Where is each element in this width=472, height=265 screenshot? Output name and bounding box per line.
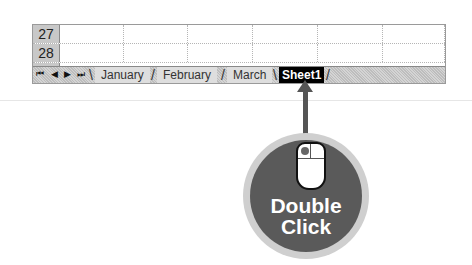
divider	[0, 100, 472, 101]
cell[interactable]	[60, 44, 124, 62]
mouse-icon	[296, 142, 326, 190]
tab-separator: \	[89, 67, 93, 83]
row-28[interactable]: 28	[33, 44, 445, 63]
cell[interactable]	[60, 25, 124, 43]
tab-january[interactable]: January	[95, 67, 150, 83]
cell[interactable]	[383, 44, 445, 62]
cell[interactable]	[253, 44, 318, 62]
tab-separator: /	[151, 67, 155, 83]
tab-separator: \	[273, 67, 277, 83]
tab-separator: /	[326, 67, 330, 83]
cell[interactable]	[253, 25, 318, 43]
sheet-tab-bar: ⏮ ◀ ▶ ⏭ \ January / February / March \ S…	[33, 66, 445, 84]
tab-february[interactable]: February	[157, 67, 217, 83]
cell[interactable]	[188, 44, 253, 62]
last-sheet-icon[interactable]: ⏭	[77, 69, 85, 80]
row-header[interactable]: 28	[33, 44, 60, 62]
left-button-highlight	[301, 147, 309, 155]
next-sheet-icon[interactable]: ▶	[64, 69, 71, 79]
row-27[interactable]: 27	[33, 25, 445, 44]
cell[interactable]	[124, 25, 188, 43]
spreadsheet-grid: 27 28 29 ⏮ ◀ ▶ ⏭ \ January / February / …	[32, 24, 446, 84]
prev-sheet-icon[interactable]: ◀	[51, 69, 58, 79]
tab-march[interactable]: March	[227, 67, 272, 83]
cell[interactable]	[318, 44, 383, 62]
tab-separator: /	[221, 67, 225, 83]
cell[interactable]	[124, 44, 188, 62]
first-sheet-icon[interactable]: ⏮	[36, 69, 44, 80]
cell[interactable]	[318, 25, 383, 43]
cell[interactable]	[383, 25, 445, 43]
row-header[interactable]: 27	[33, 25, 60, 43]
callout-text-click: Click	[250, 216, 362, 237]
cell[interactable]	[188, 25, 253, 43]
callout-text-double: Double	[250, 195, 362, 216]
